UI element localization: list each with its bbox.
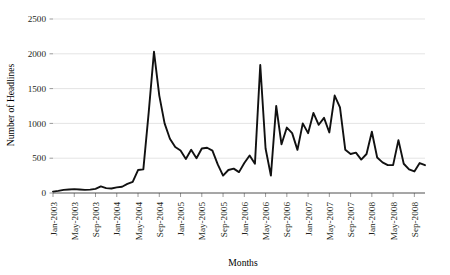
x-tick-label: Jan-2005 [176, 202, 186, 236]
x-axis-title: Months [228, 257, 258, 268]
y-axis-title: Number of Headlines [5, 63, 16, 146]
x-tick-label: Sep-2007 [346, 202, 356, 238]
x-tick-label: May-2005 [197, 202, 207, 241]
x-tick-label: Sep-2008 [410, 202, 420, 238]
y-tick-label: 500 [32, 153, 46, 163]
x-tick-label: Jan-2003 [49, 202, 59, 236]
x-tick-label: May-2003 [70, 202, 80, 241]
chart-figure: 05001000150020002500 Jan-2003May-2003Sep… [0, 0, 450, 275]
x-tick-label: May-2004 [134, 202, 144, 241]
y-axis-ticks: 05001000150020002500 [28, 14, 53, 198]
y-tick-label: 1500 [28, 84, 47, 94]
x-tick-label: Jan-2006 [240, 202, 250, 236]
y-tick-label: 0 [41, 188, 46, 198]
x-tick-label: May-2006 [261, 202, 271, 241]
x-tick-label: Jan-2008 [367, 202, 377, 236]
x-tick-label: Jan-2004 [112, 202, 122, 236]
x-tick-label: May-2008 [389, 202, 399, 241]
x-tick-label: Sep-2004 [155, 202, 165, 238]
x-tick-label: Sep-2003 [91, 202, 101, 238]
x-axis-ticks: Jan-2003May-2003Sep-2003Jan-2004May-2004… [49, 193, 420, 240]
line-chart: 05001000150020002500 Jan-2003May-2003Sep… [0, 0, 450, 275]
x-tick-label: Sep-2005 [219, 202, 229, 238]
x-tick-label: Jan-2007 [304, 202, 314, 236]
y-tick-label: 2000 [28, 49, 47, 59]
x-tick-label: Sep-2006 [282, 202, 292, 238]
y-tick-label: 1000 [28, 119, 47, 129]
gridlines [53, 19, 425, 158]
data-series-line [53, 52, 425, 192]
y-tick-label: 2500 [28, 14, 47, 24]
x-tick-label: May-2007 [325, 202, 335, 241]
